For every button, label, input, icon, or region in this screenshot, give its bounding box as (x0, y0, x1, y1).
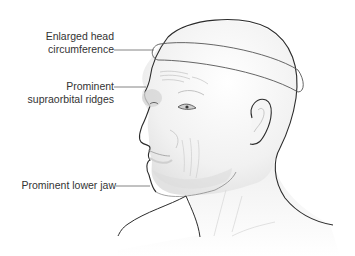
label-line2: supraorbital ridges (10, 93, 114, 106)
shoulder-outline (118, 196, 186, 236)
label-line1: Prominent (10, 80, 114, 93)
label-line2: circumference (20, 43, 114, 56)
label-enlarged-head-circumference: Enlarged head circumference (20, 30, 114, 56)
label-prominent-supraorbital-ridges: Prominent supraorbital ridges (10, 80, 114, 106)
label-line1: Prominent lower jaw (4, 179, 116, 192)
label-line1: Enlarged head (20, 30, 114, 43)
label-prominent-lower-jaw: Prominent lower jaw (4, 179, 116, 192)
pupil (185, 105, 188, 108)
brow-ridge-shading (142, 89, 162, 107)
